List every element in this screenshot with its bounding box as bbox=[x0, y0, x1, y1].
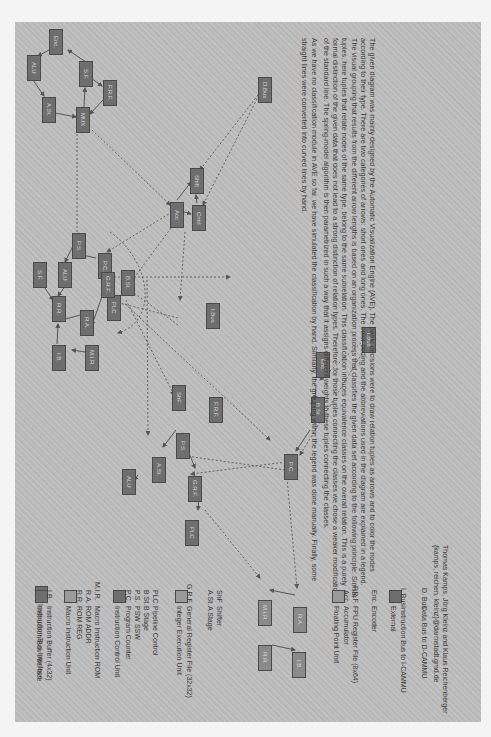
legend-label: Pipeline Control bbox=[150, 606, 160, 655]
diagram-node: R.A. bbox=[80, 310, 94, 336]
legend-label: Instruction Buffer (4x32) bbox=[44, 606, 54, 681]
diagram-node: Enc. bbox=[49, 29, 63, 55]
diagram-node: G.R.F. bbox=[101, 272, 115, 298]
legend-title: Macro Instruction Unit bbox=[63, 606, 73, 674]
diagram-node: ALU bbox=[122, 469, 136, 495]
legend-title: Floating Point Unit bbox=[331, 606, 341, 663]
diagram-node: ALU bbox=[27, 55, 41, 81]
diagram-node: F.R.F. bbox=[103, 80, 117, 106]
legend-title: External bbox=[388, 606, 398, 632]
diagram-node: S.F. bbox=[79, 61, 93, 87]
diagram-node: Shift bbox=[190, 168, 204, 194]
legend-abbr: I.B. bbox=[44, 590, 54, 601]
diagram-node: Cntrl bbox=[192, 205, 206, 231]
diagram-node: R.R. bbox=[52, 296, 66, 322]
legend-title: Instruction Control Unit bbox=[112, 606, 122, 677]
diagram-node: I.Bus bbox=[206, 303, 220, 329]
author-emails: {kamps, reichen, kleinz}@darmstadt.gmd.d… bbox=[432, 545, 441, 715]
legend-abbr: F.R.F. bbox=[350, 586, 360, 604]
description-text: The given diagram was mainly designed by… bbox=[297, 38, 377, 598]
legend-abbr: PLC. bbox=[150, 590, 160, 606]
diagram-node: PLC bbox=[107, 295, 121, 321]
legend-abbr: ShF bbox=[214, 590, 224, 603]
diagram-node: S.F. bbox=[33, 262, 47, 288]
diagram-node: ShF bbox=[172, 385, 186, 411]
diagram-node: MUX bbox=[76, 107, 90, 133]
authors: Thomas Kamps, Jörg Kleinz and Klaus Reic… bbox=[441, 545, 450, 715]
legend-title: Instruction Bus Interface bbox=[34, 606, 44, 681]
legend-abbr: Enc. bbox=[369, 590, 379, 604]
diagram-node: D.Bus bbox=[258, 77, 272, 103]
legend-label: FPU Register File (8x64) bbox=[350, 606, 360, 648]
legend-abbr: G.R.F. bbox=[184, 584, 194, 604]
diagram-node: A.St. bbox=[152, 457, 166, 483]
legend-abbr: I. Bus bbox=[398, 588, 408, 606]
diagram-node: PLC bbox=[185, 520, 199, 546]
legend-label: Shifter bbox=[214, 606, 224, 626]
diagram-node: P.S. bbox=[176, 433, 190, 459]
credits: Thomas Kamps, Jörg Kleinz and Klaus Reic… bbox=[432, 545, 450, 715]
description-paragraph: As we have no classification module in A… bbox=[300, 38, 319, 598]
legend-label: Data Bus to D-CAMMU bbox=[419, 606, 429, 661]
legend-label: Instruction Bus to I-CAMMU bbox=[398, 606, 408, 661]
legend-label: Encoder bbox=[369, 606, 379, 632]
diagram-node: Acc bbox=[170, 202, 184, 228]
legend-title: Integer Execution Unit bbox=[174, 606, 184, 675]
diagram-node: F.R.F. bbox=[209, 397, 223, 423]
diagram-node: I.B. bbox=[52, 345, 66, 371]
legend-label: Macro Instruction ROM bbox=[92, 606, 102, 678]
legend-columns: Instruction Bus Interface I.B. Instructi… bbox=[35, 590, 315, 715]
diagram-node: P.C. bbox=[284, 454, 298, 480]
legend-label: General Register File (32x32) bbox=[184, 606, 194, 666]
diagram-node: A.St. bbox=[42, 97, 56, 123]
diagram-node: M.I.R. bbox=[85, 345, 99, 371]
diagram-node: G.R.F. bbox=[188, 476, 202, 502]
description-paragraph: The given diagram was mainly designed by… bbox=[322, 38, 378, 598]
diagram-node: ALU bbox=[58, 262, 72, 288]
diagram-node: B.St. bbox=[121, 270, 135, 296]
legend-abbr: M.I.R. bbox=[92, 582, 102, 601]
diagram-node: P.S. bbox=[72, 233, 86, 259]
